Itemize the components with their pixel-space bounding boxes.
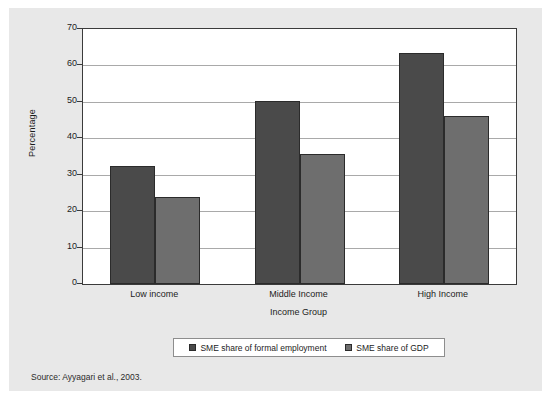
x-axis-category-labels: Low incomeMiddle IncomeHigh Income <box>82 289 515 305</box>
y-axis-tick-mark <box>77 101 82 102</box>
legend-swatch-icon <box>345 344 352 351</box>
y-axis-tick-labels: 010203040506070 <box>49 28 77 283</box>
bar <box>399 53 444 284</box>
y-axis-tick-mark <box>77 283 82 284</box>
gridline <box>83 65 516 66</box>
y-axis-tick-label: 0 <box>53 278 77 287</box>
x-axis-category-label: Middle Income <box>226 289 370 299</box>
source-note: Source: Ayyagari et al., 2003. <box>31 372 142 382</box>
y-axis-tick-mark <box>77 247 82 248</box>
chart-region: Percentage 010203040506070 Low incomeMid… <box>9 8 542 333</box>
y-axis-tick-label: 60 <box>53 59 77 68</box>
x-axis-category-label: Low income <box>82 289 226 299</box>
y-axis-tick-label: 40 <box>53 132 77 141</box>
y-axis-tick-label: 30 <box>53 169 77 178</box>
chart-legend: SME share of formal employmentSME share … <box>173 338 445 357</box>
figure-panel: Percentage 010203040506070 Low incomeMid… <box>9 8 542 391</box>
y-axis-tick-label: 10 <box>53 242 77 251</box>
y-axis-tick-label: 20 <box>53 205 77 214</box>
y-axis-tick-mark <box>77 28 82 29</box>
x-axis-title: Income Group <box>82 307 515 317</box>
bar <box>300 154 345 284</box>
x-axis-category-label: High Income <box>371 289 515 299</box>
legend-label: SME share of GDP <box>356 343 428 353</box>
legend-entry[interactable]: SME share of formal employment <box>189 343 326 353</box>
bar <box>110 166 155 284</box>
y-axis-tick-mark <box>77 210 82 211</box>
plot-area <box>82 28 517 285</box>
y-axis-tick-mark <box>77 137 82 138</box>
legend-label: SME share of formal employment <box>200 343 326 353</box>
bar <box>255 101 300 284</box>
gridline <box>83 102 516 103</box>
y-axis-title: Percentage <box>27 88 37 178</box>
y-axis-tick-label: 70 <box>53 23 77 32</box>
y-axis-tick-mark <box>77 64 82 65</box>
bar <box>155 197 200 284</box>
y-axis-tick-label: 50 <box>53 96 77 105</box>
legend-swatch-icon <box>189 344 196 351</box>
y-axis-tick-mark <box>77 174 82 175</box>
legend-entry[interactable]: SME share of GDP <box>345 343 428 353</box>
bar <box>444 116 489 284</box>
